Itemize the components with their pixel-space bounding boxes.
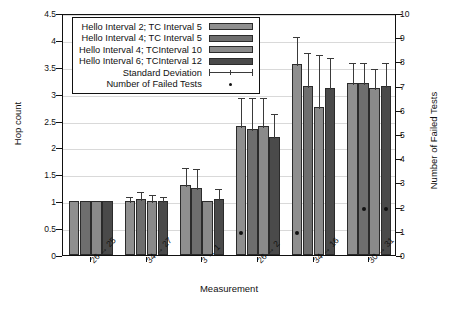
gridline [63, 230, 395, 231]
error-bar [152, 195, 153, 203]
y-tick-label-right: 9 [400, 33, 430, 43]
error-bar [364, 63, 365, 85]
bar [369, 88, 380, 255]
bar [347, 83, 358, 255]
bar [325, 88, 336, 255]
error-bar-cap [126, 197, 133, 198]
error-bar-cap [215, 189, 222, 190]
y-tick-label-left: 2.5 [22, 117, 56, 127]
y-tick-label-right: 3 [400, 178, 430, 188]
legend-swatch-series-1 [209, 23, 253, 30]
error-bar [197, 169, 198, 189]
error-bar-cap [360, 63, 367, 64]
legend-item: Hello Interval 4; TCInterval 10 [79, 44, 253, 56]
legend-item: Hello Interval 4; TC Interval 5 [79, 33, 253, 45]
bar [136, 199, 147, 255]
y-tick-label-left: 0 [22, 251, 56, 261]
y-tick-mark-right [396, 14, 402, 15]
legend-label: Standard Deviation [123, 68, 209, 78]
error-bar [386, 63, 387, 87]
error-bar-cap [371, 69, 378, 70]
error-bar [252, 98, 253, 130]
error-bar [219, 189, 220, 201]
y-tick-mark-left [56, 229, 62, 230]
legend-label: Hello Interval 2; TC Interval 5 [82, 22, 209, 32]
failed-test-dot [384, 207, 388, 211]
error-bar [297, 37, 298, 67]
bar [236, 126, 247, 255]
legend-label: Hello Interval 4; TCInterval 10 [79, 45, 209, 55]
y-tick-label-left: 0.5 [22, 224, 56, 234]
y-tick-label-right: 10 [400, 9, 430, 19]
y-tick-label-right: 5 [400, 130, 430, 140]
y-tick-mark-right [396, 62, 402, 63]
error-bar-cap [160, 197, 167, 198]
error-bar-cap [316, 55, 323, 56]
legend-label: Hello Interval 4; TC Interval 5 [82, 33, 209, 43]
y-tick-label-right: 1 [400, 227, 430, 237]
error-bar [330, 58, 331, 90]
legend-label: Hello Interval 6; TCInterval 12 [79, 56, 209, 66]
bar [247, 129, 258, 255]
error-bar [186, 168, 187, 187]
y-tick-label-left: 4.5 [22, 9, 56, 19]
gridline [63, 96, 395, 97]
error-bar-cap [349, 63, 356, 64]
bar [125, 201, 136, 255]
error-bar-cap [293, 37, 300, 38]
error-bar-cap [249, 98, 256, 99]
bar [358, 83, 369, 255]
y-tick-label-left: 1 [22, 197, 56, 207]
bar [292, 64, 303, 255]
y-tick-mark-left [56, 41, 62, 42]
y-tick-label-right: 7 [400, 82, 430, 92]
legend-item: Hello Interval 2; TC Interval 5 [79, 21, 253, 33]
legend-item: Hello Interval 6; TCInterval 12 [79, 56, 253, 68]
gridline [63, 176, 395, 177]
y-tick-mark-left [56, 122, 62, 123]
error-bar-cap [182, 168, 189, 169]
bar [258, 126, 269, 255]
legend-swatch-series-3 [209, 46, 253, 53]
y-tick-label-left: 1.5 [22, 170, 56, 180]
y-tick-label-right: 6 [400, 106, 430, 116]
y-tick-label-left: 3.5 [22, 63, 56, 73]
bar [69, 201, 80, 255]
y-tick-label-right: 2 [400, 203, 430, 213]
bar [269, 137, 280, 255]
y-tick-mark-left [56, 14, 62, 15]
y-tick-mark-left [56, 256, 62, 257]
y-tick-label-right: 4 [400, 154, 430, 164]
error-bar [375, 69, 376, 91]
legend-label: Number of Failed Tests [106, 79, 208, 89]
gridline [63, 15, 395, 16]
gridline [63, 203, 395, 204]
y-tick-mark-left [56, 202, 62, 203]
error-bar-cap [327, 58, 334, 59]
error-bar [274, 114, 275, 138]
failed-test-dot [362, 207, 366, 211]
y-axis-label-left: Hop count [12, 89, 23, 159]
bar [191, 188, 202, 255]
error-bar-cap [304, 53, 311, 54]
y-tick-mark-right [396, 135, 402, 136]
error-bar [141, 192, 142, 200]
error-bar-icon [209, 69, 253, 76]
y-tick-label-left: 4 [22, 36, 56, 46]
error-bar-cap [238, 98, 245, 99]
figure-caption [4, 296, 450, 309]
legend-swatch-series-2 [209, 35, 253, 42]
y-tick-mark-left [56, 95, 62, 96]
error-bar [353, 63, 354, 85]
failed-test-dot [239, 231, 243, 235]
error-bar [319, 55, 320, 109]
error-bar-cap [260, 98, 267, 99]
legend: Hello Interval 2; TC Interval 5 Hello In… [72, 17, 260, 94]
y-tick-label-left: 3 [22, 90, 56, 100]
y-tick-mark-right [396, 232, 402, 233]
error-bar-cap [149, 195, 156, 196]
dot-marker-icon [209, 81, 253, 88]
y-tick-mark-right [396, 38, 402, 39]
bar [381, 86, 392, 255]
y-tick-mark-right [396, 111, 402, 112]
